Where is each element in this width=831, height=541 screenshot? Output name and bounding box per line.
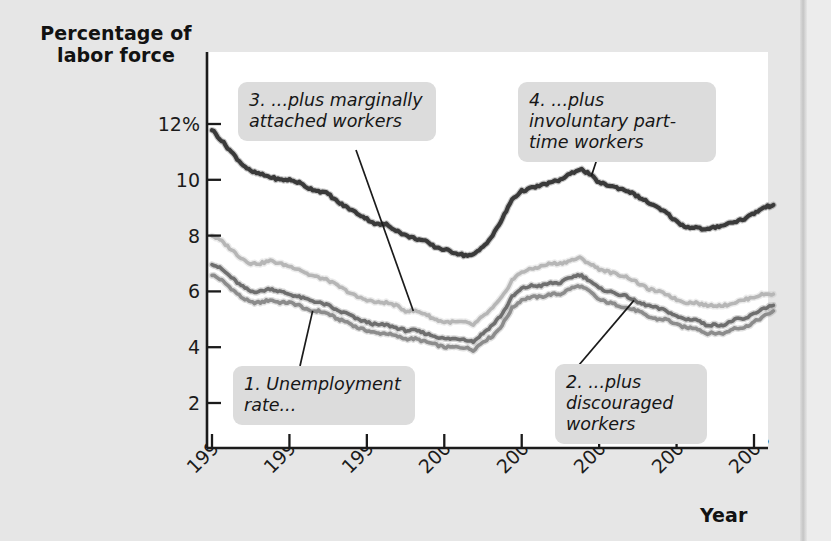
annotation-callout-4: 4. ...plus involuntary part-time workers bbox=[518, 82, 716, 162]
annotation-callout-2: 2. ...plus discouraged workers bbox=[555, 364, 707, 444]
leader-line-1 bbox=[356, 150, 413, 311]
annotation-callout-1: 1. Unemployment rate... bbox=[233, 366, 415, 425]
annotation-callout-3: 3. ...plus marginally attached workers bbox=[238, 82, 436, 141]
chart-figure: Percentage of labor force Year 24681012%… bbox=[0, 0, 831, 541]
leader-line-3 bbox=[300, 311, 313, 366]
